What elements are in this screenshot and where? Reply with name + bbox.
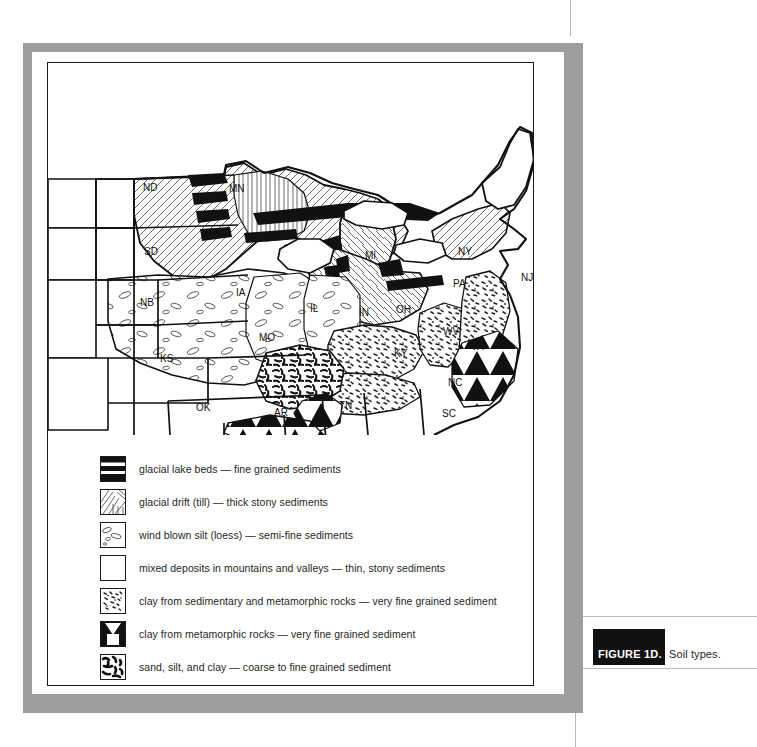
wind-blown-silt-swatch <box>100 522 126 548</box>
clay-metamorphic-swatch <box>100 621 126 647</box>
map-legend: glacial lake beds — fine grained sedimen… <box>100 453 530 684</box>
state-label-mi: MI <box>365 250 376 261</box>
figure-inner-border: NDMNSDWIMINYNBIAILINOHPANJMOWVKSKYVAOKAR… <box>47 62 534 686</box>
legend-label: clay from sedimentary and metamorphic ro… <box>139 595 497 608</box>
state-label-mn: MN <box>229 183 245 194</box>
state-label-va: VA <box>471 341 484 352</box>
legend-item-clay-metamorphic: clay from metamorphic rocks — very fine … <box>100 618 530 650</box>
state-label-wv: WV <box>443 326 459 337</box>
state-label-sc: SC <box>442 408 456 419</box>
legend-item-clay-sedimentary-metamorphic: clay from sedimentary and metamorphic ro… <box>100 585 530 617</box>
legend-item-sand-silt-clay: sand, silt, and clay — coarse to fine gr… <box>100 651 530 683</box>
figure-caption: FIGURE 1D. Soil types. <box>593 629 757 667</box>
legend-label: glacial lake beds — fine grained sedimen… <box>139 463 341 476</box>
textbook-page: NDMNSDWIMINYNBIAILINOHPANJMOWVKSKYVAOKAR… <box>0 0 757 747</box>
state-label-nc: NC <box>448 377 462 388</box>
legend-label: glacial drift (till) — thick stony sedim… <box>139 496 328 509</box>
legend-item-glacial-lake-beds: glacial lake beds — fine grained sedimen… <box>100 453 530 485</box>
legend-item-glacial-drift: glacial drift (till) — thick stony sedim… <box>100 486 530 518</box>
legend-label: sand, silt, and clay — coarse to fine gr… <box>139 661 391 674</box>
state-label-ny: NY <box>458 246 472 257</box>
state-label-il: IL <box>310 303 319 314</box>
legend-label: wind blown silt (loess) — semi-fine sedi… <box>139 529 353 542</box>
state-label-nd: ND <box>143 182 157 193</box>
state-label-ia: IA <box>236 287 246 298</box>
glacial-drift-swatch <box>100 489 126 515</box>
state-label-ok: OK <box>196 402 211 413</box>
state-label-ks: KS <box>160 353 174 364</box>
state-label-nj: NJ <box>521 272 533 283</box>
state-label-wi: WI <box>283 229 295 240</box>
soil-types-map: NDMNSDWIMINYNBIAILINOHPANJMOWVKSKYVAOKAR… <box>48 63 533 435</box>
page-gutter-rule-top <box>570 0 571 36</box>
legend-label: clay from metamorphic rocks — very fine … <box>139 628 415 641</box>
state-label-mo: MO <box>259 332 275 343</box>
figure-caption-text: Soil types. <box>669 648 721 660</box>
state-label-nb: NB <box>140 297 154 308</box>
figure-mat: NDMNSDWIMINYNBIAILINOHPANJMOWVKSKYVAOKAR… <box>32 52 564 694</box>
state-label-pa: PA <box>453 278 466 289</box>
sand-silt-clay-swatch <box>100 654 126 680</box>
glacial-lake-beds-swatch <box>100 456 126 482</box>
state-label-ar: AR <box>274 407 288 418</box>
clay-sedimentary-metamorphic-swatch <box>100 588 126 614</box>
legend-item-wind-blown-silt: wind blown silt (loess) — semi-fine sedi… <box>100 519 530 551</box>
legend-item-mixed-deposits: mixed deposits in mountains and valleys … <box>100 552 530 584</box>
caption-underline-rule <box>583 668 757 669</box>
state-label-tn: TN <box>339 400 352 411</box>
mixed-deposits-swatch <box>100 555 126 581</box>
caption-overline-rule <box>583 616 757 617</box>
state-label-oh: OH <box>396 304 411 315</box>
state-label-sd: SD <box>144 246 158 257</box>
figure-number: FIGURE 1D. <box>598 648 662 660</box>
figure-outer-frame: NDMNSDWIMINYNBIAILINOHPANJMOWVKSKYVAOKAR… <box>23 43 583 713</box>
legend-label: mixed deposits in mountains and valleys … <box>139 562 445 575</box>
state-label-in: IN <box>359 307 369 318</box>
state-label-ky: KY <box>394 348 408 359</box>
